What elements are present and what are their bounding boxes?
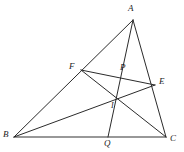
point-label-A: A bbox=[128, 4, 134, 13]
point-label-P: P bbox=[120, 63, 126, 72]
point-label-B: B bbox=[3, 130, 9, 139]
segment-cevian-BE bbox=[14, 85, 155, 137]
point-label-E: E bbox=[159, 77, 165, 86]
geometry-figure: A B C E F P I Q bbox=[0, 0, 184, 152]
point-label-C: C bbox=[170, 134, 176, 143]
point-label-F: F bbox=[69, 62, 75, 71]
figure-canvas bbox=[0, 0, 184, 152]
segment-FE bbox=[81, 70, 155, 85]
segment-side-AB bbox=[14, 20, 133, 137]
segment-cevian-FC bbox=[81, 70, 166, 137]
segment-cevian-AQ bbox=[108, 20, 133, 137]
point-label-I: I bbox=[111, 102, 114, 110]
point-label-Q: Q bbox=[104, 139, 111, 148]
